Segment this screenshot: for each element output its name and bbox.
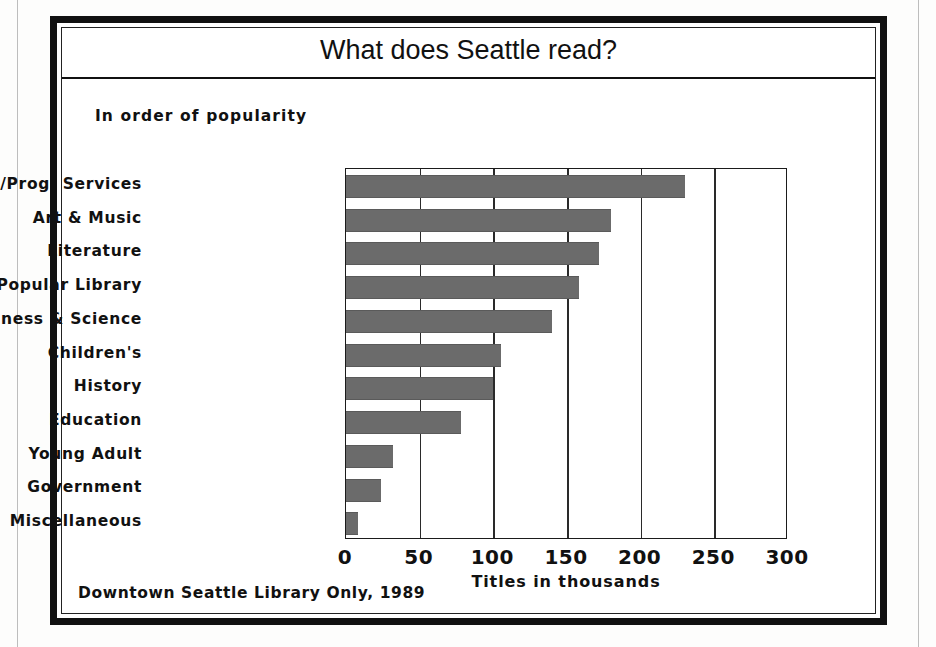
bar-row (346, 405, 786, 439)
bar-row (346, 506, 786, 540)
category-label: Media/Prog. Services (0, 175, 142, 193)
x-tick-label: 300 (765, 545, 808, 569)
category-label: Education (0, 411, 142, 429)
category-label: Popular Library (0, 276, 142, 294)
category-label: Miscellaneous (0, 512, 142, 530)
bar (346, 445, 393, 468)
bar-row (346, 203, 786, 237)
bar-row (346, 236, 786, 270)
bar (346, 276, 579, 299)
category-label: Young Adult (0, 445, 142, 463)
chart-title: What does Seattle read? (62, 35, 875, 66)
figure-outer-frame: What does Seattle read? In order of popu… (50, 16, 887, 625)
bar (346, 479, 381, 502)
plot-wrapper: Media/Prog. ServicesArt & MusicLiteratur… (62, 79, 875, 613)
category-label: Children's (0, 344, 142, 362)
page-edge-rule-right (918, 0, 919, 647)
bar (346, 310, 552, 333)
chart-body: In order of popularity Media/Prog. Servi… (62, 79, 875, 613)
bar (346, 377, 493, 400)
title-band: What does Seattle read? (62, 28, 875, 79)
x-tick-label: 250 (692, 545, 735, 569)
x-tick-label: 0 (338, 545, 352, 569)
bar (346, 512, 358, 535)
x-tick-label: 200 (618, 545, 661, 569)
x-tick-label: 50 (404, 545, 433, 569)
bar (346, 209, 611, 232)
bar-row (346, 169, 786, 203)
bar-row (346, 304, 786, 338)
bar (346, 344, 501, 367)
figure-page: What does Seattle read? In order of popu… (0, 0, 936, 647)
bar-row (346, 439, 786, 473)
chart-footnote: Downtown Seattle Library Only, 1989 (78, 584, 425, 602)
x-tick-label: 100 (471, 545, 514, 569)
bar-row (346, 473, 786, 507)
bar-row (346, 371, 786, 405)
category-label: Business & Science (0, 310, 142, 328)
category-label: Government (0, 478, 142, 496)
bar-row (346, 338, 786, 372)
figure-inner-frame: What does Seattle read? In order of popu… (61, 27, 876, 614)
bar-row (346, 270, 786, 304)
category-label: Art & Music (0, 209, 142, 227)
bar (346, 175, 685, 198)
category-label: Literature (0, 242, 142, 260)
bar (346, 242, 599, 265)
bar (346, 411, 461, 434)
plot-area (345, 168, 787, 539)
x-tick-label: 150 (544, 545, 587, 569)
category-label: History (0, 377, 142, 395)
